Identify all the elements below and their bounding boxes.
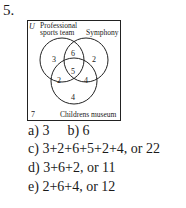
universe-label: U: [29, 22, 36, 31]
region-sports-symphony: 6: [71, 49, 75, 58]
venn-diagram: U Professional sports team Symphony Chil…: [0, 0, 186, 208]
answer-c: c) 3+2+6+5+2+4, or 22: [28, 141, 160, 157]
label-symphony: Symphony: [86, 28, 119, 37]
region-outside: 7: [31, 110, 35, 119]
label-sports-line2: sports team: [40, 28, 75, 37]
region-symphony-only: 2: [92, 55, 96, 64]
answer-e: e) 2+6+4, or 12: [28, 179, 115, 195]
region-all-three: 5: [71, 67, 75, 76]
region-sports-only: 3: [52, 55, 56, 64]
answer-b: b) 6: [67, 123, 89, 138]
region-symphony-museum: 4: [84, 76, 88, 85]
circle-sports-team: [40, 38, 84, 82]
answer-d: d) 3+6+2, or 11: [28, 160, 116, 176]
region-museum-only: 4: [71, 93, 75, 102]
region-sports-museum: 2: [57, 76, 61, 85]
label-childrens-museum: Childrens museum: [60, 110, 117, 119]
answer-a: a) 3: [28, 123, 49, 138]
answer-row-ab: a) 3b) 6: [28, 123, 90, 139]
